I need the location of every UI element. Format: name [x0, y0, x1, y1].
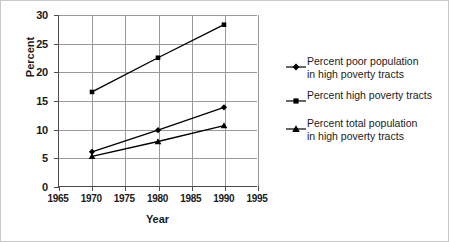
chart-legend: Percent poor population in high poverty …	[285, 55, 445, 151]
legend-diamond-icon	[285, 60, 307, 74]
y-tick-label: 10	[14, 124, 48, 136]
data-point-marker	[221, 122, 228, 128]
legend-triangle-icon	[285, 122, 307, 136]
x-tick	[258, 186, 259, 191]
x-tick	[225, 186, 226, 191]
data-point-marker	[221, 104, 227, 110]
legend-label: Percent total population in high poverty…	[307, 117, 417, 142]
y-tick-label: 20	[14, 66, 48, 78]
legend-item: Percent poor population in high poverty …	[285, 55, 445, 80]
data-series-layer	[59, 15, 257, 186]
x-tick	[59, 186, 60, 191]
x-tick	[125, 186, 126, 191]
x-tick-label: 1995	[237, 193, 277, 204]
chart-figure: Percent 051015202530 1965197019751980198…	[0, 0, 449, 242]
plot-area	[58, 15, 257, 187]
y-tick-label: 0	[14, 181, 48, 193]
y-tick-label: 25	[14, 38, 48, 50]
x-tick	[159, 186, 160, 191]
data-point-marker	[222, 22, 227, 27]
y-tick-label: 30	[14, 9, 48, 21]
y-tick-label: 5	[14, 152, 48, 164]
data-point-marker	[90, 90, 95, 95]
y-axis-title: Percent	[24, 12, 36, 102]
y-tick-label: 15	[14, 95, 48, 107]
data-point-marker	[155, 127, 161, 133]
legend-item: Percent total population in high poverty…	[285, 117, 445, 142]
gridline-vertical	[258, 15, 259, 186]
legend-square-icon	[285, 94, 307, 108]
data-series	[90, 22, 227, 94]
x-tick	[92, 186, 93, 191]
legend-item: Percent high poverty tracts	[285, 89, 445, 108]
legend-label: Percent high poverty tracts	[307, 89, 432, 102]
x-tick	[192, 186, 193, 191]
legend-label: Percent poor population in high poverty …	[307, 55, 419, 80]
x-axis-title: Year	[58, 213, 257, 225]
data-point-marker	[156, 55, 161, 60]
